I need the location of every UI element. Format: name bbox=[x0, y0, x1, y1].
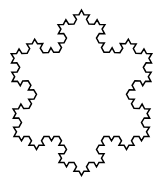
koch-snowflake-diagram bbox=[0, 0, 162, 189]
figure-canvas bbox=[0, 0, 162, 189]
koch-snowflake-path bbox=[11, 10, 152, 175]
